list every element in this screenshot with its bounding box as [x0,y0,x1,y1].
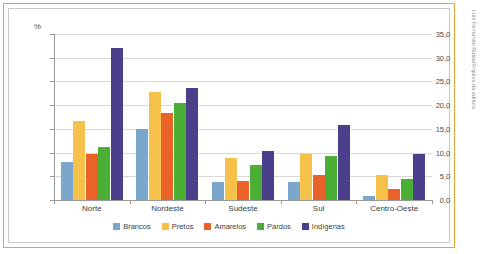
bar [262,151,274,200]
x-axis-tick-label: Sudeste [228,204,257,213]
legend-swatch-icon [113,223,120,230]
bar-series-container [54,34,432,200]
bar [338,125,350,200]
x-axis-tick-mark [356,200,357,204]
bar-group [288,34,350,200]
legend-item[interactable]: Indígenas [302,222,345,231]
bar [237,181,249,200]
bar [250,165,262,200]
bar-group [61,34,123,200]
legend-label: Pardos [267,222,291,231]
bar [186,88,198,200]
bar [288,182,300,200]
plot-area: % 0,05,010,015,020,025,030,035,0 NorteNo… [8,8,450,243]
bar [388,189,400,200]
bar-group [212,34,274,200]
chart-legend: BrancosPretosAmarelosPardosIndígenas [8,222,450,231]
x-axis-tick-mark [54,200,55,204]
bar [98,147,110,200]
image-credit-text: Luiz Fernando Rubio/Arquivo da editora [471,10,477,109]
x-axis-tick-label: Centro-Oeste [370,204,418,213]
bar-group [136,34,198,200]
legend-item[interactable]: Brancos [113,222,151,231]
x-axis-tick-mark [432,200,433,204]
legend-label: Pretos [172,222,194,231]
bar [149,92,161,200]
bar [212,182,224,200]
legend-label: Amarelos [214,222,246,231]
bar [73,121,85,200]
bar [61,162,73,200]
image-credit: Luiz Fernando Rubio/Arquivo da editora [468,8,480,188]
bar [300,154,312,200]
legend-item[interactable]: Pretos [162,222,194,231]
x-axis-tick-label: Nordeste [151,204,183,213]
x-axis-tick-mark [281,200,282,204]
x-axis-tick-label: Sul [313,204,325,213]
bar [136,129,148,200]
y-axis-unit-label: % [34,22,41,31]
bar [174,103,186,200]
bar [325,156,337,200]
bar [111,48,123,200]
bar [413,154,425,200]
chart-figure: % 0,05,010,015,020,025,030,035,0 NorteNo… [0,0,481,254]
legend-label: Indígenas [312,222,345,231]
bar [225,158,237,200]
bar [363,196,375,200]
legend-swatch-icon [204,223,211,230]
bar [313,175,325,200]
bar-group [363,34,425,200]
bar [376,175,388,200]
legend-item[interactable]: Pardos [257,222,291,231]
legend-item[interactable]: Amarelos [204,222,246,231]
legend-swatch-icon [162,223,169,230]
legend-swatch-icon [257,223,264,230]
gridline [54,200,432,201]
legend-swatch-icon [302,223,309,230]
bar [161,113,173,200]
x-axis-tick-mark [130,200,131,204]
bar [401,179,413,200]
x-axis-tick-mark [205,200,206,204]
bar [86,154,98,200]
legend-label: Brancos [123,222,151,231]
x-axis-tick-label: Norte [82,204,102,213]
